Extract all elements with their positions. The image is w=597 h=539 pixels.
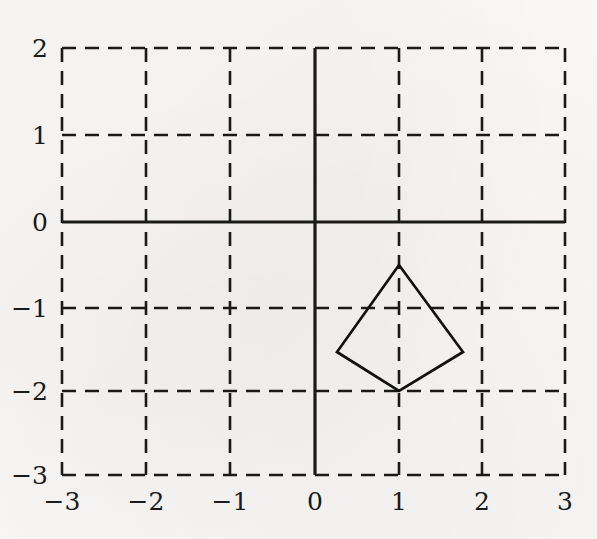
y-tick-label: 2 xyxy=(32,34,48,63)
figure-canvas: −3 −2 −1 0 1 2 3 2 1 0 −1 −2 −3 xyxy=(0,0,597,539)
y-tick-label: −3 xyxy=(11,461,48,490)
x-tick-label: 1 xyxy=(391,487,407,516)
x-tick-label: 0 xyxy=(307,487,323,516)
x-tick-label: −3 xyxy=(44,487,81,516)
axes xyxy=(62,48,565,475)
y-tick-label: −1 xyxy=(11,294,48,323)
y-tick-label: 1 xyxy=(32,121,48,150)
y-tick-label: −2 xyxy=(11,377,48,406)
y-tick-labels: 2 1 0 −1 −2 −3 xyxy=(11,34,48,490)
x-tick-label: −1 xyxy=(212,487,249,516)
x-tick-label: 2 xyxy=(474,487,490,516)
y-tick-label: 0 xyxy=(32,208,48,237)
x-tick-label: 3 xyxy=(557,487,573,516)
x-tick-labels: −3 −2 −1 0 1 2 3 xyxy=(44,487,573,516)
x-tick-label: −2 xyxy=(128,487,165,516)
coordinate-plane-plot: −3 −2 −1 0 1 2 3 2 1 0 −1 −2 −3 xyxy=(0,0,597,539)
